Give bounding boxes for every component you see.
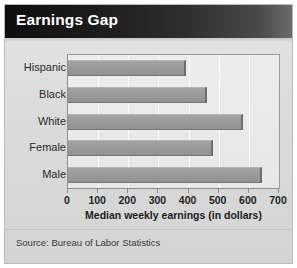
x-tick-label-700: 700 bbox=[269, 194, 287, 206]
x-tick-label-100: 100 bbox=[88, 194, 106, 206]
chart-figure: Earnings Gap 0100200300400500600700 Medi… bbox=[0, 0, 297, 268]
x-tick-200 bbox=[127, 188, 128, 193]
x-axis-title: Median weekly earnings (in dollars) bbox=[67, 209, 280, 221]
x-tick-400 bbox=[188, 188, 189, 193]
plot-area bbox=[67, 54, 280, 189]
y-axis-label-white: White bbox=[38, 115, 66, 127]
chart-title: Earnings Gap bbox=[16, 11, 118, 29]
x-tick-500 bbox=[218, 188, 219, 193]
x-tick-label-300: 300 bbox=[149, 194, 167, 206]
bar-black bbox=[68, 87, 207, 103]
x-axis-tick-labels: 0100200300400500600700 bbox=[5, 194, 293, 208]
y-axis-label-male: Male bbox=[42, 168, 66, 180]
bar-hispanic bbox=[68, 60, 186, 76]
x-tick-0 bbox=[67, 188, 68, 193]
x-tick-label-200: 200 bbox=[119, 194, 137, 206]
y-axis-label-black: Black bbox=[39, 88, 66, 100]
x-tick-700 bbox=[278, 188, 279, 193]
x-tick-label-400: 400 bbox=[179, 194, 197, 206]
source-note: Source: Bureau of Labor Statistics bbox=[16, 237, 160, 248]
source-divider bbox=[5, 229, 293, 230]
chart-card: Earnings Gap 0100200300400500600700 Medi… bbox=[4, 4, 293, 264]
y-axis-label-female: Female bbox=[29, 141, 66, 153]
chart-title-bar: Earnings Gap bbox=[5, 5, 293, 38]
x-tick-100 bbox=[97, 188, 98, 193]
x-tick-600 bbox=[248, 188, 249, 193]
chart-body: 0100200300400500600700 Median weekly ear… bbox=[5, 42, 293, 264]
bar-white bbox=[68, 114, 243, 130]
bar-male bbox=[68, 167, 262, 183]
x-tick-label-500: 500 bbox=[209, 194, 227, 206]
x-tick-label-0: 0 bbox=[64, 194, 70, 206]
bar-female bbox=[68, 140, 213, 156]
x-tick-300 bbox=[157, 188, 158, 193]
y-axis-label-hispanic: Hispanic bbox=[24, 61, 66, 73]
x-tick-label-600: 600 bbox=[239, 194, 257, 206]
